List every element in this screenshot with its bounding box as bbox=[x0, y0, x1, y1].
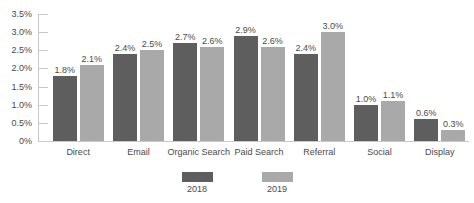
legend-item-2018[interactable]: 2018 bbox=[167, 172, 227, 194]
bar-value-label: 0.6% bbox=[409, 108, 443, 118]
bar-2019[interactable] bbox=[381, 101, 405, 141]
bar-2018[interactable] bbox=[53, 76, 77, 141]
y-axis-tick bbox=[39, 87, 48, 88]
legend-swatch bbox=[262, 172, 293, 182]
bar-chart: 3.5%3.0%2.5%2.0%1.5%1.0%0.5%0% 1.8%2.1%2… bbox=[0, 0, 474, 203]
bar-2019[interactable] bbox=[321, 32, 345, 141]
bar-group: 2.4%2.5% bbox=[113, 14, 164, 141]
bar-2019[interactable] bbox=[80, 65, 104, 141]
y-axis-tick-label: 2.5% bbox=[0, 46, 32, 55]
y-axis-tick bbox=[39, 50, 48, 51]
legend-swatch bbox=[182, 172, 213, 182]
bar-value-label: 2.4% bbox=[289, 43, 323, 53]
y-axis-tick-label: 3.5% bbox=[0, 10, 32, 19]
bar-value-label: 2.5% bbox=[135, 39, 169, 49]
y-axis-tick-label: 3.0% bbox=[0, 28, 32, 37]
bar-2019[interactable] bbox=[441, 130, 465, 141]
bar-2018[interactable] bbox=[354, 105, 378, 141]
y-axis-tick bbox=[39, 105, 48, 106]
bar-2018[interactable] bbox=[234, 36, 258, 141]
legend-item-2019[interactable]: 2019 bbox=[247, 172, 307, 194]
legend-label: 2019 bbox=[247, 184, 307, 194]
bar-2018[interactable] bbox=[294, 54, 318, 141]
x-axis-baseline bbox=[39, 141, 469, 142]
bar-group: 2.7%2.6% bbox=[173, 14, 224, 141]
bar-value-label: 2.6% bbox=[195, 36, 229, 46]
y-axis-tick bbox=[39, 32, 48, 33]
bar-2018[interactable] bbox=[113, 54, 137, 141]
y-axis-tick bbox=[39, 123, 48, 124]
legend-label: 2018 bbox=[167, 184, 227, 194]
bar-2018[interactable] bbox=[173, 43, 197, 141]
bar-group: 0.6%0.3% bbox=[414, 14, 465, 141]
y-axis-tick-label: 0% bbox=[0, 137, 32, 146]
category-label: Display bbox=[395, 147, 474, 158]
bar-value-label: 2.6% bbox=[256, 36, 290, 46]
bar-2019[interactable] bbox=[200, 47, 224, 141]
y-axis-tick-label: 0.5% bbox=[0, 119, 32, 128]
bar-group: 2.9%2.6% bbox=[234, 14, 285, 141]
bar-group: 2.4%3.0% bbox=[294, 14, 345, 141]
bar-2018[interactable] bbox=[414, 119, 438, 141]
chart-legend: 20182019 bbox=[0, 172, 474, 200]
bar-value-label: 0.3% bbox=[436, 119, 470, 129]
bar-group: 1.8%2.1% bbox=[53, 14, 104, 141]
bar-group: 1.0%1.1% bbox=[354, 14, 405, 141]
y-axis-tick bbox=[39, 68, 48, 69]
bar-2019[interactable] bbox=[140, 50, 164, 141]
bar-value-label: 1.8% bbox=[48, 65, 82, 75]
bar-2019[interactable] bbox=[261, 47, 285, 141]
bar-value-label: 2.9% bbox=[229, 25, 263, 35]
bar-value-label: 3.0% bbox=[316, 21, 350, 31]
y-axis-tick-label: 1.5% bbox=[0, 83, 32, 92]
y-axis-tick bbox=[39, 14, 48, 15]
y-axis-tick-label: 1.0% bbox=[0, 101, 32, 110]
y-axis-tick-label: 2.0% bbox=[0, 64, 32, 73]
bar-value-label: 1.1% bbox=[376, 90, 410, 100]
bar-value-label: 2.1% bbox=[75, 54, 109, 64]
